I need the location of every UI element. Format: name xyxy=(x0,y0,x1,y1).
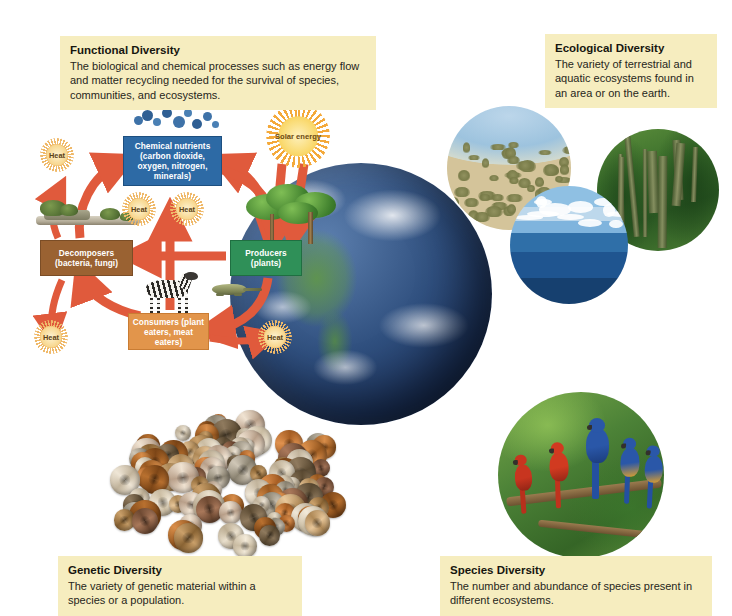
scrub-tuft xyxy=(489,175,500,181)
snail-shell xyxy=(259,525,280,546)
tree-trunk xyxy=(643,149,647,237)
macaw-beak xyxy=(621,443,626,448)
scrub-tuft xyxy=(538,150,552,156)
cloud xyxy=(527,211,559,217)
cloud xyxy=(568,201,593,213)
heat-burst-1: Heat xyxy=(40,138,74,172)
scrub-tuft xyxy=(474,212,490,222)
cycle-node-chemical-nutrients[interactable]: Chemical nutrients (carbon dioxide, oxyg… xyxy=(123,136,222,186)
snail-shell xyxy=(132,508,158,534)
scrub-tuft xyxy=(454,187,470,197)
macaw-body xyxy=(514,464,533,491)
caption-ecological-diversity: Ecological Diversity The variety of terr… xyxy=(545,34,717,108)
caption-title: Ecological Diversity xyxy=(555,41,707,56)
heat-burst-3: Heat xyxy=(170,192,204,226)
scrub-tuft xyxy=(491,194,504,200)
macaw-beak xyxy=(549,448,554,453)
scrub-tuft xyxy=(527,185,535,192)
cycle-node-consumers[interactable]: Consumers (plant eaters, meat eaters) xyxy=(128,313,209,350)
scrub-tuft xyxy=(555,176,563,182)
solar-energy-label: Solar energy xyxy=(275,132,321,141)
solar-energy-sun-icon: Solar energy xyxy=(266,104,330,168)
caption-functional-diversity: Functional Diversity The biological and … xyxy=(60,36,376,110)
macaw-body xyxy=(549,452,569,481)
scrub-tuft xyxy=(479,194,491,201)
heat-burst-5: Heat xyxy=(258,320,292,354)
macaw-tail xyxy=(592,460,599,499)
scrub-tuft xyxy=(458,170,470,180)
molecule-cluster-icon xyxy=(126,106,222,136)
macaw-tail xyxy=(554,476,561,508)
heat-burst-4: Heat xyxy=(34,320,68,354)
caption-body: The number and abundance of species pres… xyxy=(450,579,702,608)
snail-shell xyxy=(219,501,242,524)
nutrient-cycle-diagram: Chemical nutrients (carbon dioxide, oxyg… xyxy=(18,98,348,388)
caption-genetic-diversity: Genetic Diversity The variety of genetic… xyxy=(58,556,302,616)
snail-shell xyxy=(233,534,257,558)
macaw-tail xyxy=(624,472,631,504)
macaw-beak xyxy=(645,450,650,455)
scrub-tuft xyxy=(507,156,520,164)
heat-label: Heat xyxy=(131,205,147,214)
heat-label: Heat xyxy=(179,205,195,214)
scrub-tuft xyxy=(463,142,470,152)
cloud xyxy=(607,211,628,217)
zebra-illustration xyxy=(140,274,202,316)
caption-title: Genetic Diversity xyxy=(68,563,292,578)
scrub-tuft xyxy=(449,197,459,208)
cloud xyxy=(609,220,624,229)
snail-shell xyxy=(305,510,331,536)
scrub-tuft xyxy=(506,194,522,202)
tree-trunk xyxy=(691,147,698,202)
macaw xyxy=(545,439,588,520)
snail-shell xyxy=(174,523,204,553)
cycle-node-decomposers[interactable]: Decomposers (bacteria, fungi) xyxy=(40,240,133,276)
cloud xyxy=(594,198,614,206)
macaw-body xyxy=(644,455,663,483)
scrub-tuft xyxy=(560,164,569,175)
caption-title: Functional Diversity xyxy=(70,43,366,58)
macaw-beak xyxy=(587,425,592,430)
scrub-tuft xyxy=(509,177,519,184)
caption-title: Species Diversity xyxy=(450,563,702,578)
scrub-tuft xyxy=(543,164,559,176)
lizard-illustration xyxy=(210,280,262,300)
caption-body: The variety of genetic material within a… xyxy=(68,579,292,608)
caption-body: The variety of terrestrial and aquatic e… xyxy=(555,57,707,100)
macaw xyxy=(638,443,664,525)
tree-illustration xyxy=(244,180,342,246)
tree-trunk xyxy=(657,156,667,249)
heat-label: Heat xyxy=(267,333,283,342)
scrub-tuft xyxy=(468,155,480,160)
caption-species-diversity: Species Diversity The number and abundan… xyxy=(440,556,712,616)
heat-label: Heat xyxy=(49,151,65,160)
scrub-tuft xyxy=(482,158,490,169)
macaw-body xyxy=(586,428,609,463)
macaws-on-branch-photo xyxy=(498,392,664,558)
scrub-tuft xyxy=(508,142,519,147)
heat-label: Heat xyxy=(43,333,59,342)
heat-burst-2: Heat xyxy=(122,192,156,226)
scrub-tuft xyxy=(535,177,544,187)
scrub-tuft xyxy=(464,198,479,207)
ocean-photo xyxy=(510,186,628,304)
macaw-body xyxy=(620,447,640,476)
tree-trunk xyxy=(625,135,641,237)
cloud xyxy=(578,219,603,227)
cycle-node-producers[interactable]: Producers (plants) xyxy=(230,240,302,276)
scrub-tuft xyxy=(562,146,571,155)
caption-body: The biological and chemical processes su… xyxy=(70,59,366,102)
snail-shells-photo xyxy=(108,398,354,560)
snail-shell xyxy=(175,425,191,441)
scrub-tuft xyxy=(507,204,516,214)
